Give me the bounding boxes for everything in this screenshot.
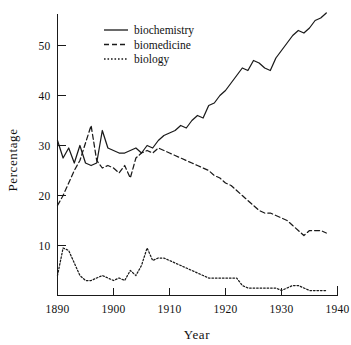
y-tick-label: 50 xyxy=(38,40,50,52)
legend-label-biology: biology xyxy=(134,53,169,66)
x-tick-label: 1900 xyxy=(101,303,125,315)
chart-figure: 1020304050 189019001910192019301940 Perc… xyxy=(0,0,351,345)
x-tick-label: 1890 xyxy=(45,303,69,315)
y-tick-label: 30 xyxy=(38,140,50,152)
x-axis-title: Year xyxy=(184,327,210,342)
y-tick-label: 40 xyxy=(38,90,50,102)
legend-label-biomedicine: biomedicine xyxy=(134,39,191,51)
x-tick-label: 1940 xyxy=(325,303,349,315)
x-tick-label: 1920 xyxy=(213,303,237,315)
y-tick-label: 20 xyxy=(38,190,50,202)
line-chart: 1020304050 189019001910192019301940 Perc… xyxy=(0,0,351,345)
chart-background xyxy=(0,0,351,345)
legend-label-biochemistry: biochemistry xyxy=(134,24,194,37)
x-tick-label: 1930 xyxy=(269,303,293,315)
y-axis-title: Percentage xyxy=(5,128,20,191)
y-tick-label: 10 xyxy=(38,240,50,252)
x-tick-label: 1910 xyxy=(157,303,181,315)
